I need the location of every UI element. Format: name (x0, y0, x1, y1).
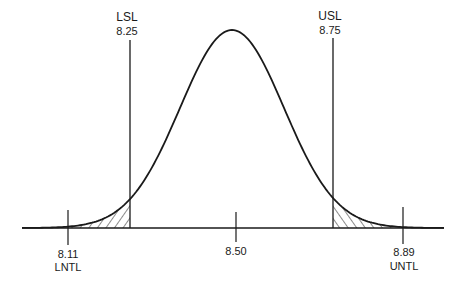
untl-name-label: UNTL (384, 260, 424, 272)
usl-value-label: 8.75 (310, 24, 350, 36)
lntl-value-label: 8.11 (48, 248, 88, 260)
usl-name-label: USL (310, 10, 350, 22)
normal-distribution-diagram (0, 0, 459, 283)
upper-tail-hatched-region (0, 0, 459, 283)
lsl-name-label: LSL (107, 11, 147, 23)
lsl-value-label: 8.25 (107, 25, 147, 37)
normal-curve (22, 30, 444, 228)
lntl-name-label: LNTL (48, 261, 88, 273)
center-value-label: 8.50 (216, 245, 256, 257)
untl-value-label: 8.89 (384, 246, 424, 258)
lower-tail-hatched-region (0, 0, 459, 283)
